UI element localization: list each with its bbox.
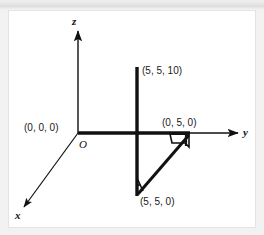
x-axis-line: [24, 133, 78, 207]
coordinate-system-drawing: [0, 0, 264, 235]
point-top-label: (5, 5, 10): [142, 66, 182, 76]
figure-root: z y x (0, 0, 0) O (5, 5, 10) (0, 5, 0) (…: [0, 0, 264, 235]
y-axis-label: y: [243, 127, 248, 138]
segment-ypoint-to-base: [138, 135, 189, 194]
z-axis-label: z: [72, 16, 76, 27]
point-y-axis-label: (0, 5, 0): [162, 118, 196, 128]
origin-coordinate-label: (0, 0, 0): [24, 123, 58, 133]
origin-symbol: O: [79, 139, 87, 150]
point-base-label: (5, 5, 0): [140, 197, 174, 207]
x-axis-label: x: [15, 210, 21, 221]
